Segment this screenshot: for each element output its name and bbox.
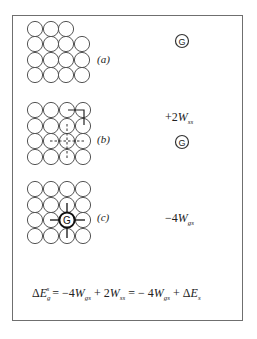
panel-label-a: (a) (97, 53, 110, 65)
surface-lattice-c (27, 181, 90, 243)
surface-lattice-a (27, 21, 89, 82)
vacancy-dashed-cross (50, 124, 85, 158)
surface-lattice-b (27, 102, 90, 164)
adsorbed-gas-symbol: G (63, 215, 71, 226)
adsorption-energy-equation: ΔEgs = −4Wgs + 2Wss = − 4Wgs + ΔEs (32, 285, 201, 302)
panel-label-c: (c) (97, 211, 109, 223)
gas-atom-b-symbol: G (178, 138, 185, 148)
panel-label-b: (b) (97, 133, 110, 145)
energy-term-b: +2Wss (165, 110, 193, 126)
gas-atom-a-symbol: G (178, 37, 185, 47)
energy-term-c: −4Wgs (165, 211, 194, 227)
